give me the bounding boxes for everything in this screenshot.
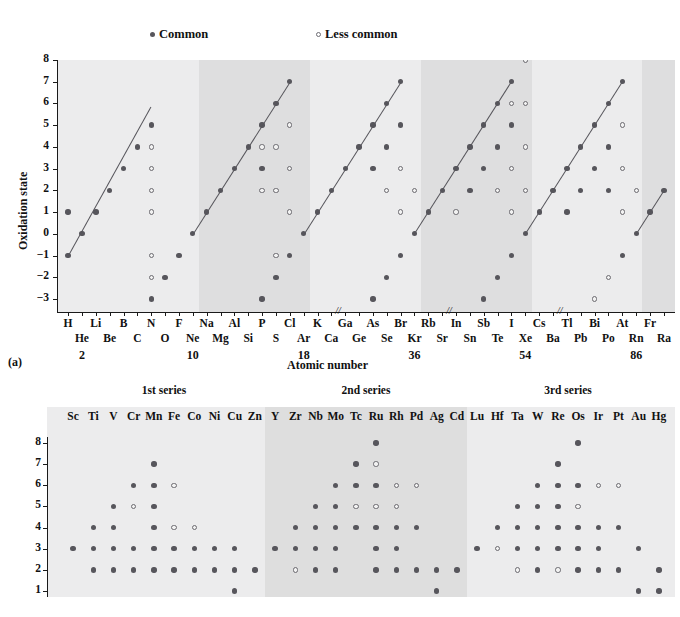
element-label: O	[154, 332, 176, 344]
x-tick	[539, 312, 540, 316]
element-label: As	[362, 317, 384, 329]
data-point-common	[394, 567, 399, 572]
x-tick	[179, 312, 180, 316]
y-tick-label: 4	[19, 520, 41, 532]
data-point-common	[252, 567, 257, 572]
y-tick	[53, 256, 57, 257]
element-label: Mn	[143, 410, 165, 422]
element-label: Mg	[210, 332, 232, 344]
period-band	[199, 60, 311, 312]
y-tick-label: 6	[27, 95, 49, 107]
data-point-less-common	[273, 253, 278, 258]
element-label: P	[251, 317, 273, 329]
element-label: He	[71, 332, 93, 344]
element-label: V	[103, 410, 125, 422]
data-point-common	[414, 567, 419, 572]
x-tick	[318, 312, 319, 316]
x-tick	[498, 312, 499, 316]
data-point-common	[259, 296, 264, 301]
element-label: Rh	[385, 410, 407, 422]
y-tick	[43, 464, 47, 465]
data-point-common	[353, 483, 358, 488]
y-tick-label: 7	[27, 74, 49, 86]
x-tick	[456, 312, 457, 316]
data-point-less-common	[453, 209, 458, 214]
element-label: Al	[223, 317, 245, 329]
element-label: W	[527, 410, 549, 422]
element-label: Ca	[320, 332, 342, 344]
data-point-common	[555, 525, 560, 530]
element-label: Kr	[403, 332, 425, 344]
y-tick	[53, 234, 57, 235]
data-point-less-common	[394, 483, 399, 488]
y-tick	[53, 299, 57, 300]
period-band	[421, 60, 533, 312]
x-tick	[207, 312, 208, 316]
y-tick-label: 0	[27, 226, 49, 238]
data-point-less-common	[592, 296, 597, 301]
x-tick	[82, 312, 83, 316]
x-tick	[511, 312, 512, 316]
data-point-common	[434, 567, 439, 572]
x-tick	[137, 312, 138, 316]
data-point-common	[454, 567, 459, 572]
data-point-common	[353, 525, 358, 530]
data-point-common	[555, 546, 560, 551]
x-tick	[262, 312, 263, 316]
panel-a-tag: (a)	[8, 355, 22, 370]
y-tick	[53, 60, 57, 61]
series-title: 3rd series	[523, 384, 613, 396]
data-point-less-common	[171, 483, 176, 488]
group-number-label: 36	[403, 348, 425, 363]
data-point-less-common	[149, 275, 154, 280]
data-point-less-common	[523, 60, 528, 63]
element-label: In	[445, 317, 467, 329]
data-point-common	[656, 588, 661, 593]
x-tick	[151, 312, 152, 316]
x-tick	[581, 312, 582, 316]
element-label: Hg	[648, 410, 670, 422]
y-tick	[53, 82, 57, 83]
element-label: Ge	[348, 332, 370, 344]
data-point-common	[151, 567, 156, 572]
y-tick	[53, 277, 57, 278]
element-label: Se	[376, 332, 398, 344]
data-point-common	[151, 525, 156, 530]
element-label: Fe	[163, 410, 185, 422]
y-tick	[43, 549, 47, 550]
data-point-common	[535, 567, 540, 572]
x-tick	[650, 312, 651, 316]
data-point-common	[232, 567, 237, 572]
axis-break-marker: //	[557, 305, 563, 316]
data-point-less-common	[353, 504, 358, 509]
x-tick	[373, 312, 374, 316]
series-band	[467, 407, 661, 597]
series-title: 1st series	[119, 384, 209, 396]
element-label: Ir	[587, 410, 609, 422]
element-label: Ra	[653, 332, 675, 344]
panel-b-plot-area	[47, 407, 675, 597]
y-tick	[53, 212, 57, 213]
x-tick	[414, 312, 415, 316]
element-label: Cd	[446, 410, 468, 422]
element-label: H	[57, 317, 79, 329]
element-label: Ru	[365, 410, 387, 422]
data-point-common	[192, 567, 197, 572]
element-label: Au	[628, 410, 650, 422]
data-point-common	[65, 209, 70, 214]
x-tick	[331, 312, 332, 316]
y-tick-label: −1	[27, 248, 49, 260]
x-tick	[276, 312, 277, 316]
y-tick-label: 5	[27, 117, 49, 129]
x-tick	[290, 312, 291, 316]
element-label: Ar	[293, 332, 315, 344]
element-label: N	[140, 317, 162, 329]
data-point-common	[606, 144, 611, 149]
element-label: Si	[237, 332, 259, 344]
data-point-less-common	[149, 144, 154, 149]
element-label: Fr	[639, 317, 661, 329]
data-point-less-common	[620, 209, 625, 214]
data-point-less-common	[149, 188, 154, 193]
element-label: Bi	[584, 317, 606, 329]
element-label: Nb	[305, 410, 327, 422]
